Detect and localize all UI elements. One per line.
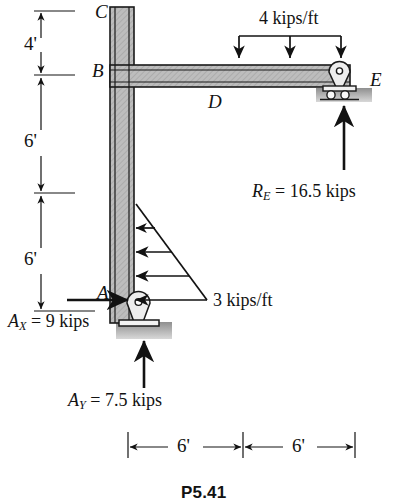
beam-member-bde [110, 65, 350, 87]
reaction-ax-label: AX = 9 kips [8, 312, 89, 333]
figure-caption: P5.41 [181, 484, 226, 499]
point-label-d: D [208, 92, 222, 111]
reaction-ay-subscript: Y [79, 398, 86, 412]
horizontal-dimension-chain [128, 432, 355, 458]
reaction-ay-value: = 7.5 kips [90, 390, 162, 410]
vertical-dimension-chain [34, 11, 95, 311]
reaction-re-value: = 16.5 kips [275, 181, 356, 201]
dimension-6ft-upper: 6' [24, 131, 37, 150]
beam-distributed-load [239, 36, 341, 58]
reaction-ax-value: = 9 kips [31, 311, 89, 331]
beam-load-label: 4 kips/ft [259, 9, 319, 27]
reaction-re-symbol: R [252, 181, 263, 201]
point-label-b: B [92, 61, 104, 80]
reaction-re-subscript: E [263, 189, 270, 203]
reaction-re-label: RE = 16.5 kips [252, 182, 356, 203]
dimension-6ft-lower: 6' [24, 249, 37, 268]
structural-diagram [0, 0, 414, 499]
reaction-ay-symbol: A [68, 390, 79, 410]
dimension-6ft-left-span: 6' [177, 436, 190, 455]
column-distributed-load [136, 204, 207, 300]
reaction-ax-symbol: A [8, 311, 19, 331]
point-label-c: C [95, 2, 108, 21]
reaction-ay-label: AY = 7.5 kips [68, 391, 162, 412]
dimension-6ft-right-span: 6' [292, 436, 305, 455]
column-load-label: 3 kips/ft [213, 291, 273, 309]
point-label-a: A [97, 283, 109, 302]
reaction-ax-subscript: X [19, 319, 26, 333]
column-member-abc [110, 7, 134, 323]
point-label-e: E [370, 70, 382, 89]
dimension-4ft: 4' [24, 34, 37, 53]
